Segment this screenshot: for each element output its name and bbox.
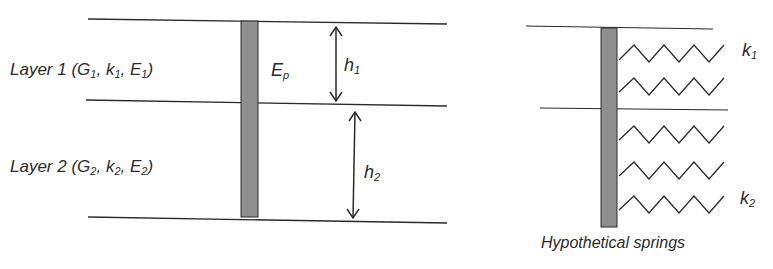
k2-label: k2 <box>740 188 755 209</box>
spring-k2-3 <box>619 196 724 213</box>
right-pile <box>601 28 617 227</box>
h2-label: h2 <box>364 162 380 183</box>
spring-k2-2 <box>619 162 724 179</box>
layer-boundary-line <box>86 100 447 106</box>
spring-k1-lower <box>619 78 724 95</box>
spring-k2-1 <box>619 126 724 143</box>
right-layer-boundary-line <box>540 108 728 110</box>
h1-dimension-arrow <box>330 27 342 101</box>
h2-dimension-arrow <box>347 112 361 218</box>
k1-label: k1 <box>742 40 757 61</box>
layer-bottom-line <box>88 217 447 223</box>
diagram-canvas <box>0 0 773 269</box>
hypothetical-springs-caption: Hypothetical springs <box>541 234 685 252</box>
pile <box>241 21 258 217</box>
right-ground-surface-line <box>526 26 713 29</box>
spring-k1-upper <box>619 45 724 62</box>
pile-modulus-label: Ep <box>271 60 289 81</box>
layer1-label: Layer 1 (G1, k1, E1) <box>10 60 153 80</box>
h1-label: h1 <box>344 55 360 76</box>
layer2-label: Layer 2 (G2, k2, E2) <box>10 157 153 177</box>
ground-surface-line <box>88 19 447 24</box>
